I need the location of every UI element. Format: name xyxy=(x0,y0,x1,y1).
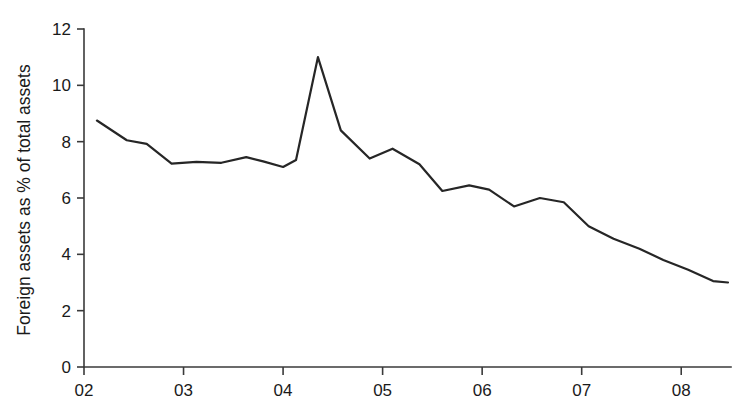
chart-container: Foreign assets as % of total assets 0246… xyxy=(0,0,748,419)
x-tick-label: 04 xyxy=(274,381,293,400)
y-tick-label: 0 xyxy=(62,358,71,377)
x-tick-label: 06 xyxy=(473,381,492,400)
x-tick-label: 07 xyxy=(572,381,591,400)
y-tick-label: 6 xyxy=(62,189,71,208)
x-axis-tick-marks xyxy=(84,367,681,375)
x-tick-label: 02 xyxy=(75,381,94,400)
y-tick-label: 8 xyxy=(62,133,71,152)
x-tick-label: 03 xyxy=(174,381,193,400)
y-axis-tick-marks xyxy=(77,29,84,367)
line-chart: Foreign assets as % of total assets 0246… xyxy=(0,0,748,419)
y-axis-title-group: Foreign assets as % of total assets xyxy=(14,64,34,336)
y-tick-label: 12 xyxy=(52,20,71,39)
y-tick-label: 4 xyxy=(62,245,71,264)
x-tick-label: 08 xyxy=(672,381,691,400)
y-tick-label: 10 xyxy=(52,76,71,95)
y-axis-title: Foreign assets as % of total assets xyxy=(14,64,34,336)
x-tick-label: 05 xyxy=(373,381,392,400)
x-axis-tick-labels: 02030405060708 xyxy=(75,381,691,400)
y-tick-label: 2 xyxy=(62,302,71,321)
data-series-group xyxy=(97,57,728,282)
series-line xyxy=(97,57,728,282)
y-axis-tick-labels: 024681012 xyxy=(52,20,71,377)
